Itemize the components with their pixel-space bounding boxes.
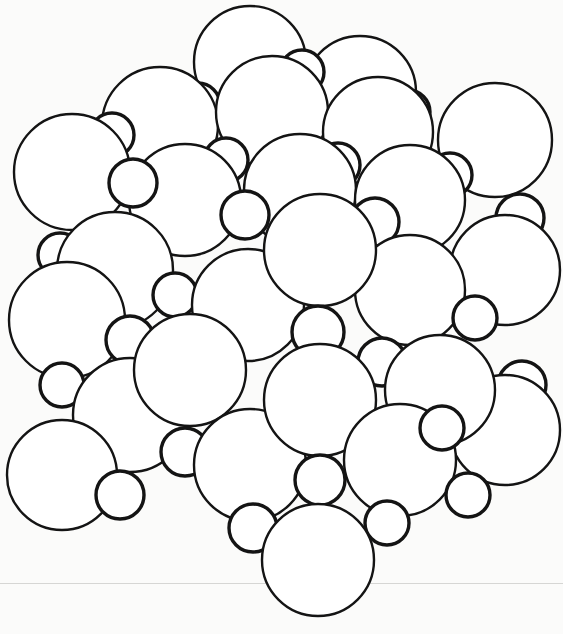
crystal-lattice-diagram	[0, 0, 563, 634]
small-sphere	[96, 471, 144, 519]
large-sphere	[134, 314, 246, 426]
small-sphere	[453, 296, 497, 340]
small-sphere	[295, 455, 345, 505]
small-sphere	[221, 191, 269, 239]
small-sphere	[446, 473, 490, 517]
large-sphere	[262, 504, 374, 616]
large-sphere	[264, 194, 376, 306]
large-sphere	[9, 262, 125, 378]
small-sphere	[420, 406, 464, 450]
small-sphere	[365, 501, 409, 545]
large-sphere	[7, 420, 117, 530]
small-sphere	[109, 159, 157, 207]
small-sphere	[153, 273, 197, 317]
